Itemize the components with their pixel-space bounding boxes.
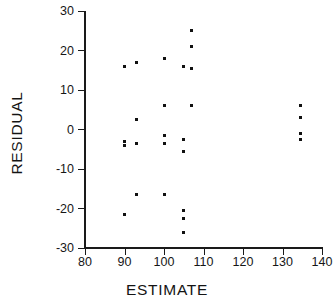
scatter-point <box>135 118 138 121</box>
x-tick-mark <box>322 248 323 255</box>
x-tick-mark <box>164 248 165 255</box>
scatter-point <box>123 144 126 147</box>
scatter-point <box>190 67 193 70</box>
y-tick-label: 0 <box>34 124 74 137</box>
scatter-point <box>163 57 166 60</box>
scatter-point <box>190 29 193 32</box>
scatter-point <box>190 104 193 107</box>
scatter-point <box>299 132 302 135</box>
residual-vs-estimate-scatter-chart: 3020100-10-20-30 8090100110120130140 EST… <box>0 0 334 308</box>
scatter-point <box>182 65 185 68</box>
x-tick-label: 100 <box>144 256 184 269</box>
scatter-point <box>123 65 126 68</box>
scatter-point <box>135 142 138 145</box>
x-tick-label: 140 <box>302 256 334 269</box>
scatter-point <box>190 45 193 48</box>
scatter-point <box>182 231 185 234</box>
scatter-point <box>182 150 185 153</box>
y-tick-mark <box>78 50 85 51</box>
y-axis-title: RESIDUAL <box>8 53 26 213</box>
y-tick-label: -30 <box>34 242 74 255</box>
x-tick-mark <box>204 248 205 255</box>
y-tick-label: 20 <box>34 45 74 58</box>
scatter-point <box>299 116 302 119</box>
x-tick-label: 80 <box>65 256 105 269</box>
scatter-point <box>163 104 166 107</box>
scatter-point <box>299 104 302 107</box>
y-tick-mark <box>78 129 85 130</box>
x-tick-label: 120 <box>223 256 263 269</box>
y-tick-mark <box>78 208 85 209</box>
scatter-point <box>135 193 138 196</box>
x-tick-label: 130 <box>263 256 303 269</box>
scatter-point <box>135 61 138 64</box>
y-tick-label: -10 <box>34 163 74 176</box>
y-tick-mark <box>78 169 85 170</box>
scatter-point <box>182 217 185 220</box>
scatter-point <box>163 193 166 196</box>
scatter-point <box>163 142 166 145</box>
x-axis-title: ESTIMATE <box>0 281 334 299</box>
scatter-point <box>182 138 185 141</box>
scatter-point <box>182 209 185 212</box>
scatter-point <box>163 134 166 137</box>
y-tick-label: 10 <box>34 84 74 97</box>
y-tick-label: 30 <box>34 5 74 18</box>
x-tick-label: 90 <box>105 256 145 269</box>
x-tick-mark <box>85 248 86 255</box>
scatter-point <box>299 138 302 141</box>
x-tick-label: 110 <box>184 256 224 269</box>
scatter-point <box>123 140 126 143</box>
scatter-point <box>123 213 126 216</box>
y-tick-mark <box>78 90 85 91</box>
x-tick-mark <box>125 248 126 255</box>
y-tick-mark <box>78 11 85 12</box>
x-tick-mark <box>243 248 244 255</box>
y-tick-label: -20 <box>34 203 74 216</box>
x-tick-mark <box>283 248 284 255</box>
scatter-points-layer <box>85 11 322 248</box>
y-tick-mark <box>78 248 85 249</box>
